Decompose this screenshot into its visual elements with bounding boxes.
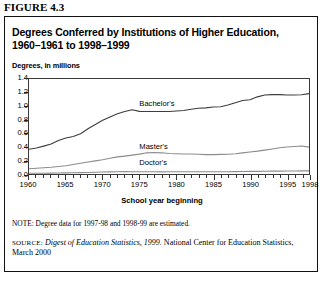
x-axis-tick <box>43 175 44 178</box>
x-axis-tick <box>139 175 140 180</box>
chart-svg <box>29 79 309 174</box>
x-axis-tick <box>280 175 281 178</box>
x-axis-tick <box>162 175 163 178</box>
y-axis-labels: 0.00.20.40.60.81.01.21.4 <box>4 72 28 181</box>
y-axis-tick <box>24 161 28 162</box>
x-axis-tick <box>35 175 36 178</box>
x-axis-tick <box>273 175 274 178</box>
x-axis-tick <box>110 175 111 178</box>
x-axis-tick <box>288 175 289 180</box>
x-axis-tick <box>132 175 133 178</box>
x-axis-labels: 196019651970197519801985199019951998 <box>0 180 324 192</box>
x-axis-tick <box>310 175 311 180</box>
x-axis-tick-label: 1998 <box>302 180 319 189</box>
x-axis-tick <box>169 175 170 178</box>
x-axis-tick <box>199 175 200 178</box>
x-axis-tick <box>295 175 296 178</box>
y-axis-tick <box>24 92 28 93</box>
x-axis-title: School year beginning <box>0 196 324 205</box>
x-axis-tick <box>243 175 244 178</box>
title-line-1: Degrees Conferred by Institutions of Hig… <box>12 26 302 39</box>
series-label-bachelors: Bachelor's <box>139 99 174 108</box>
x-axis-tick <box>117 175 118 178</box>
series-label-masters: Master's <box>139 142 167 151</box>
x-axis-tick <box>214 175 215 180</box>
source-prefix: SOURCE: <box>12 239 43 247</box>
chart-source: SOURCE: Digest of Education Statistics, … <box>12 238 308 258</box>
y-axis-tick <box>24 106 28 107</box>
x-axis-tick <box>73 175 74 178</box>
x-axis-tick <box>95 175 96 178</box>
x-axis-tick-label: 1970 <box>94 180 111 189</box>
page-title: Degrees Conferred by Institutions of Hig… <box>12 26 302 51</box>
x-axis-tick-label: 1960 <box>20 180 37 189</box>
x-axis-tick <box>58 175 59 178</box>
x-axis-ticks <box>28 175 310 179</box>
x-axis-tick <box>184 175 185 178</box>
x-axis-tick <box>80 175 81 178</box>
chart-note: NOTE: Degree data for 1997-98 and 1998-9… <box>12 219 308 228</box>
y-axis-tick <box>24 175 28 176</box>
x-axis-tick <box>303 175 304 178</box>
series-line-masters <box>29 146 309 169</box>
x-axis-tick <box>191 175 192 178</box>
x-axis-tick <box>176 175 177 180</box>
x-axis-tick <box>258 175 259 178</box>
chart-canvas <box>29 79 309 174</box>
figure-page: FIGURE 4.3 Degrees Conferred by Institut… <box>0 0 324 282</box>
x-axis-tick <box>147 175 148 178</box>
x-axis-tick <box>50 175 51 178</box>
x-axis-tick <box>221 175 222 178</box>
x-axis-tick-label: 1990 <box>242 180 259 189</box>
x-axis-tick-label: 1965 <box>57 180 74 189</box>
source-title: Digest of Education Statistics, 1999. <box>45 238 162 247</box>
x-axis-tick <box>65 175 66 180</box>
y-axis-tick <box>24 78 28 79</box>
x-axis-tick-label: 1985 <box>205 180 222 189</box>
x-axis-tick <box>154 175 155 178</box>
x-axis-tick <box>265 175 266 178</box>
x-axis-tick <box>28 175 29 180</box>
x-axis-tick <box>236 175 237 178</box>
title-line-2: 1960–1961 to 1998–1999 <box>12 39 302 52</box>
series-label-doctors: Doctor's <box>139 158 167 167</box>
x-axis-tick <box>251 175 252 180</box>
x-axis-tick <box>102 175 103 180</box>
y-axis-tick <box>24 133 28 134</box>
series-line-doctors <box>29 171 309 173</box>
x-axis-tick <box>124 175 125 178</box>
figure-number: FIGURE 4.3 <box>4 1 64 13</box>
y-axis-tick <box>24 120 28 121</box>
x-axis-tick <box>228 175 229 178</box>
x-axis-tick-label: 1995 <box>279 180 296 189</box>
chart-plot-area <box>28 78 310 175</box>
x-axis-tick <box>206 175 207 178</box>
y-axis-tick <box>24 147 28 148</box>
chart-subtitle: Degrees, in millions <box>12 61 80 70</box>
x-axis-tick-label: 1975 <box>131 180 148 189</box>
x-axis-tick <box>87 175 88 178</box>
x-axis-tick-label: 1980 <box>168 180 185 189</box>
